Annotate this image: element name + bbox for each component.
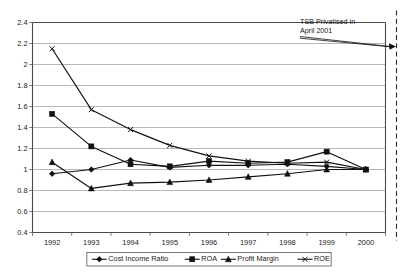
datapoint-roa-1999 — [324, 149, 329, 154]
datapoint-roa-1995 — [167, 164, 172, 169]
y-axis-label: 2.4 — [17, 18, 27, 27]
legend-label-cost-income-ratio: Cost Income Ratio — [108, 254, 168, 263]
legend-marker-roa — [190, 257, 195, 262]
x-axis-label-1997: 1997 — [240, 238, 256, 247]
line-chart: 0.40.60.811.21.41.61.822.22.4 1992199319… — [0, 0, 418, 273]
y-axis-label: 2 — [23, 60, 27, 69]
y-axis-label: 1.2 — [17, 144, 27, 153]
x-axis-label-1999: 1999 — [318, 238, 334, 247]
y-axis-label: 1 — [23, 165, 27, 174]
y-axis-label: 1.8 — [17, 81, 27, 90]
annotation-line-2: April 2001 — [300, 26, 332, 35]
datapoint-roa-1994 — [128, 162, 133, 167]
y-axis-label: 0.4 — [17, 228, 27, 237]
x-axis-label-1996: 1996 — [201, 238, 217, 247]
datapoint-roa-1993 — [89, 144, 94, 149]
x-axis-tick-labels: 199219931994199519961997199819992000 — [44, 238, 374, 247]
y-axis-label: 0.8 — [17, 186, 27, 195]
legend-label-roa: ROA — [201, 254, 217, 263]
y-axis-label: 2.2 — [17, 39, 27, 48]
x-axis-label-1994: 1994 — [122, 238, 138, 247]
legend-label-roe: ROE — [314, 254, 330, 263]
chart-legend: Cost Income RatioROAProfit MarginROE — [87, 253, 331, 267]
datapoint-roa-1992 — [50, 111, 55, 116]
x-axis-label-1998: 1998 — [279, 238, 295, 247]
y-axis-label: 0.6 — [17, 207, 27, 216]
legend-label-profit-margin: Profit Margin — [237, 254, 278, 263]
x-axis-label-2000: 2000 — [358, 238, 374, 247]
y-axis-label: 1.4 — [17, 123, 27, 132]
x-axis-label-1993: 1993 — [83, 238, 99, 247]
x-axis-label-1992: 1992 — [44, 238, 60, 247]
annotation-line-1: TSB Privatised in — [300, 17, 355, 26]
x-axis-label-1995: 1995 — [162, 238, 178, 247]
datapoint-roa-1996 — [207, 159, 212, 164]
chart-container: 0.40.60.811.21.41.61.822.22.4 1992199319… — [0, 0, 418, 273]
y-axis-label: 1.6 — [17, 102, 27, 111]
